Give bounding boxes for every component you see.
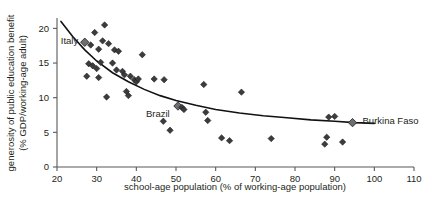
data-point	[324, 134, 330, 140]
data-point	[95, 74, 101, 80]
data-point	[167, 127, 173, 133]
y-tick-label: 10	[38, 92, 49, 103]
data-point	[99, 38, 105, 44]
data-point	[113, 67, 119, 73]
y-axis-ticks: 05101520	[38, 23, 57, 173]
y-tick-label: 0	[44, 161, 49, 172]
y-tick-label: 15	[38, 57, 49, 68]
data-point	[103, 94, 109, 100]
data-point	[203, 109, 209, 115]
data-point	[109, 60, 115, 66]
x-axis-title: school-age population (% of working-age …	[124, 181, 346, 192]
x-tick-label: 110	[406, 173, 421, 184]
data-point	[322, 141, 328, 147]
y-tick-label: 5	[44, 127, 49, 138]
annotation-brazil: Brazil	[146, 108, 170, 119]
x-tick-label: 20	[52, 173, 63, 184]
data-point	[268, 135, 274, 141]
data-point	[218, 135, 224, 141]
data-point	[160, 118, 166, 124]
y-tick-label: 20	[38, 23, 49, 34]
x-tick-label: 100	[366, 173, 382, 184]
annotation-italy: Italy	[61, 35, 79, 46]
y-axis-title-line2: (% GDP/working-age adult)	[17, 35, 28, 151]
data-point	[326, 114, 332, 120]
axes	[57, 18, 414, 167]
x-tick-label: 30	[91, 173, 102, 184]
data-point	[331, 113, 337, 119]
data-points	[81, 22, 357, 148]
data-point	[91, 29, 97, 35]
data-point	[161, 76, 167, 82]
data-point	[139, 52, 145, 58]
data-point	[151, 76, 157, 82]
data-point	[201, 81, 207, 87]
y-axis-title-line1: generosity of public education benefit	[5, 14, 16, 171]
scatter-plot-figure: 2030405060708090100110 05101520 ItalyBra…	[0, 0, 430, 213]
chart-canvas: 2030405060708090100110 05101520 ItalyBra…	[0, 0, 430, 213]
data-point	[95, 46, 101, 52]
data-point-burkina-faso	[348, 118, 356, 126]
annotation-burkina-faso: Burkina Faso	[363, 115, 419, 126]
data-point	[101, 22, 107, 28]
trend-line-path	[61, 21, 374, 123]
fit-curve	[61, 21, 374, 123]
data-point	[205, 117, 211, 123]
data-point	[226, 137, 232, 143]
data-point	[105, 40, 111, 46]
data-point	[238, 89, 244, 95]
data-point	[339, 139, 345, 145]
data-point	[84, 73, 90, 79]
